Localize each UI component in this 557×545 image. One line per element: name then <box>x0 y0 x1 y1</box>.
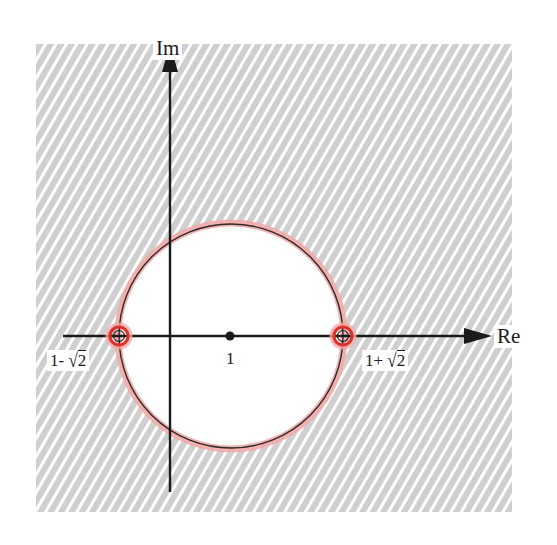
point-label-right-prefix: 1+ <box>365 351 387 370</box>
center-point <box>226 332 235 341</box>
sqrt-symbol: √2 <box>387 352 405 369</box>
point-label-right: 1+ √2 <box>362 350 408 371</box>
imag-axis-label: Im <box>153 37 182 60</box>
complex-plane-diagram: Im Re 1 1- √2 1+ √2 <box>0 0 557 545</box>
center-label: 1 <box>226 350 235 367</box>
point-label-left: 1- √2 <box>47 350 89 371</box>
diagram-canvas <box>0 0 557 545</box>
real-axis-label: Re <box>494 325 523 348</box>
point-label-left-prefix: 1- <box>50 351 68 370</box>
sqrt-symbol: √2 <box>68 352 86 369</box>
